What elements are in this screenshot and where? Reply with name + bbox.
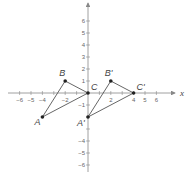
x-tick-label: 5: [143, 97, 147, 103]
x-tick-label: 4: [132, 97, 136, 103]
point-bprime: [109, 79, 113, 83]
x-tick-label: 6: [155, 97, 159, 103]
y-tick-label: −5: [78, 150, 86, 156]
point-label: A: [33, 117, 40, 127]
point-b: [63, 79, 67, 83]
y-tick-label: 4: [82, 42, 86, 48]
point-label: A': [76, 118, 85, 128]
y-tick-label: 5: [82, 30, 86, 36]
x-tick-label: −5: [28, 97, 36, 103]
x-tick-label: −4: [39, 97, 47, 103]
point-label: B': [105, 68, 113, 78]
x-tick-label: −6: [16, 97, 24, 103]
point-a: [41, 115, 45, 119]
y-tick-label: 1: [82, 78, 86, 84]
point-aprime: [86, 115, 90, 119]
point-cprime: [132, 91, 136, 95]
point-label: C': [137, 82, 145, 92]
y-tick-label: 6: [82, 18, 86, 24]
point-label: C: [91, 82, 98, 92]
y-tick-label: −6: [78, 162, 86, 168]
point-label: B: [59, 68, 65, 78]
y-tick-label: 2: [82, 66, 86, 72]
y-tick-label: −1: [78, 102, 86, 108]
y-tick-label: 3: [82, 54, 86, 60]
x-tick-label: 2: [109, 97, 113, 103]
x-axis-label: x: [179, 88, 184, 98]
point-c: [86, 91, 90, 95]
y-tick-label: −4: [78, 138, 86, 144]
x-tick-label: −2: [62, 97, 70, 103]
coordinate-plane: x−6−5−4−22456654321−1−4−5−6ABCA'B'C': [0, 0, 191, 176]
